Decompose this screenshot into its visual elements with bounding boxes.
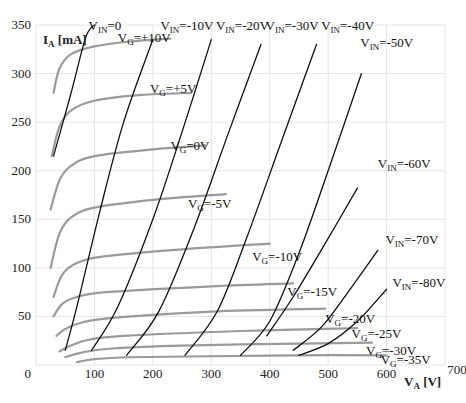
grid	[36, 25, 445, 365]
y-axis-ticks: 050100150200250300350	[12, 17, 32, 381]
curve-label: VIN=-30V	[266, 18, 320, 35]
x-tick-label: 300	[202, 366, 222, 381]
x-tick-label: 400	[260, 366, 280, 381]
curve-label: VG=+5V	[150, 81, 197, 98]
vin-line	[65, 40, 153, 351]
curve-label: VIN=-20V	[216, 18, 270, 35]
curve-label: VIN=-60V	[378, 156, 432, 173]
curve-label: VIN=-50V	[360, 35, 414, 52]
vin-lines	[54, 25, 387, 355]
curve-label: VG=0V	[170, 138, 210, 155]
y-tick-label: 150	[12, 211, 32, 226]
y-tick-label: 100	[12, 260, 32, 275]
curve-label: VG=-35V	[381, 352, 432, 369]
vg-curve	[77, 355, 387, 362]
curve-label: VIN=0	[89, 18, 122, 35]
y-tick-label: 250	[12, 114, 32, 129]
y-tick-label: 50	[18, 308, 31, 323]
x-axis-label: VA [V]	[404, 374, 441, 391]
y-tick-label: 0	[25, 366, 32, 381]
curve-label: VG=-15V	[287, 284, 338, 301]
y-axis-label: IA [mA]	[43, 32, 87, 49]
y-tick-label: 300	[12, 66, 32, 81]
curve-label: VG=-25V	[352, 326, 403, 343]
anode-characteristics-chart: 050100150200250300350 100200300400500600…	[0, 0, 466, 403]
y-tick-label: 200	[12, 163, 32, 178]
x-tick-label: 200	[143, 366, 163, 381]
x-tick-label: 100	[85, 366, 105, 381]
y-tick-label: 350	[12, 17, 32, 32]
curve-label: VIN=-40V	[321, 18, 375, 35]
curve-label: VIN=-10V	[160, 18, 214, 35]
curve-label: VIN=-70V	[385, 232, 439, 249]
x-tick-label: 700	[447, 362, 466, 377]
curve-label: VG=-10V	[252, 249, 303, 266]
vg-curve	[54, 283, 294, 316]
x-tick-label: 500	[318, 366, 338, 381]
curve-label: VG=-5V	[188, 196, 232, 213]
curve-label: VIN=-80V	[392, 275, 446, 292]
